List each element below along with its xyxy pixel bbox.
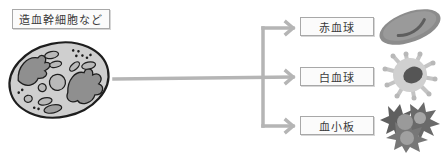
white-blood-cell-label-box: 白血球 <box>300 67 374 86</box>
platelet-label-box: 血小板 <box>300 116 374 135</box>
source-label: 造血幹細胞など <box>19 11 103 27</box>
white-blood-cell-label: 白血球 <box>319 69 355 85</box>
source-label-box: 造血幹細胞など <box>12 9 110 29</box>
red-blood-cell-label-box: 赤血球 <box>300 17 374 36</box>
platelet-label: 血小板 <box>319 118 355 134</box>
red-blood-cell-label: 赤血球 <box>319 19 355 35</box>
